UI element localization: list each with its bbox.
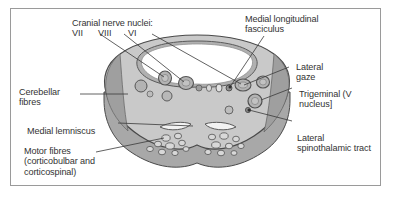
nucleus-small-left-a [135, 80, 147, 92]
anatomical-figure: Cranial nerve nuclei: VII VIII VI Medial… [0, 0, 394, 198]
label-roman-vii: VII [72, 28, 83, 38]
label-trigeminal-nucleus: Trigeminal (V nucleus] [299, 89, 351, 110]
label-roman-vi: VI [128, 28, 137, 38]
nucleus-midline-a [196, 85, 202, 91]
nucleus-small-left-b [147, 91, 153, 97]
nucleus-small-left-c [162, 91, 172, 101]
label-cranial-nerve-nuclei-title: Cranial nerve nuclei: [72, 18, 153, 28]
nucleus-viii-left-inner [162, 74, 169, 81]
label-lateral-gaze: Lateral gaze [296, 62, 323, 83]
nucleus-vi-right-inner [239, 82, 248, 88]
nucleus-vii-left-inner [182, 80, 190, 86]
nucleus-right-b-inner [260, 79, 267, 85]
nucleus-midline-c [216, 84, 222, 92]
label-motor-fibres: Motor fibres (corticobulbar and corticos… [24, 146, 95, 177]
label-lateral-spinothalamic-tract: Lateral spinothalamic tract [297, 133, 371, 154]
label-medial-longitudinal-fasciculus: Medial longitudinal fasciculus [245, 14, 318, 35]
nucleus-right-small [225, 106, 233, 114]
label-roman-viii: VIII [98, 28, 112, 38]
label-medial-lemniscus: Medial lemniscus [27, 126, 95, 136]
trigeminal-nucleus-inner [251, 97, 258, 104]
label-cerebellar-fibres: Cerebellar fibres [19, 87, 60, 108]
nucleus-midline-b [206, 85, 211, 92]
